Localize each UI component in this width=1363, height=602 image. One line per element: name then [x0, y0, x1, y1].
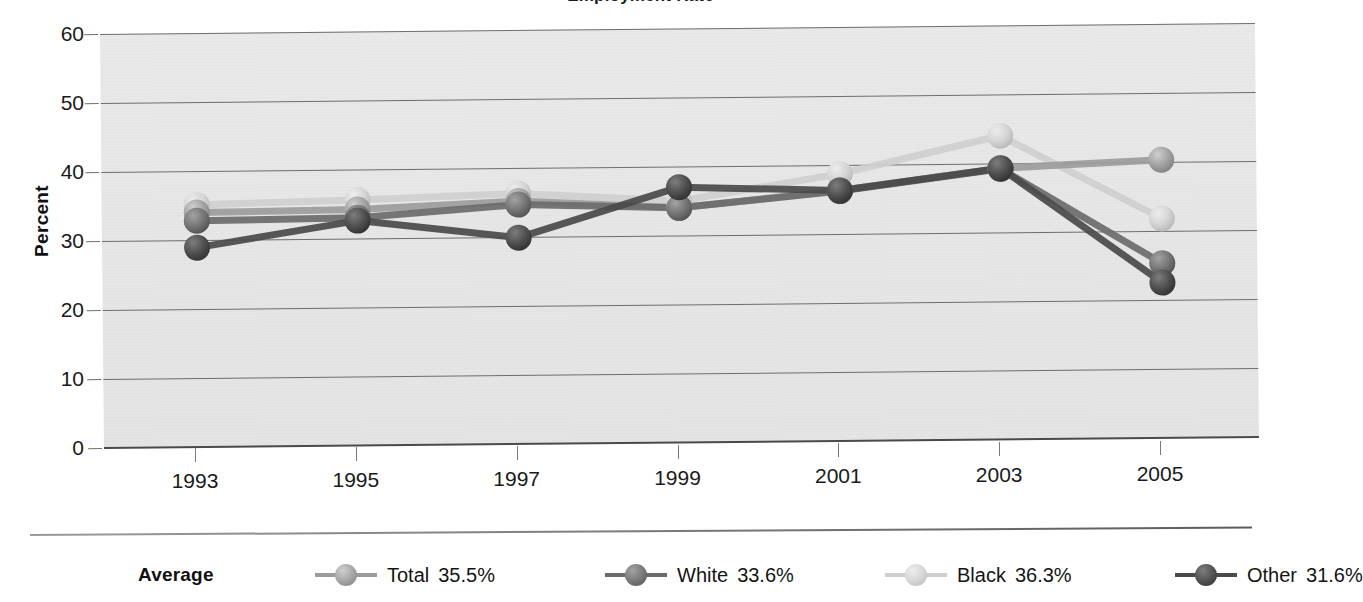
legend-item-other[interactable]: Other31.6% — [1175, 558, 1363, 592]
data-point-other-2005 — [1149, 269, 1175, 295]
legend-marker-white — [625, 564, 647, 586]
legend-label-other: Other — [1247, 564, 1297, 587]
data-point-other-2003 — [987, 155, 1013, 181]
x-tick-label: 2005 — [1105, 462, 1215, 486]
legend-label-black: Black — [957, 564, 1006, 587]
y-tick-mark — [86, 241, 100, 242]
data-point-black-2003 — [987, 123, 1013, 149]
y-tick-mark — [87, 310, 101, 311]
y-tick-label: 40 — [32, 161, 84, 182]
legend-swatch-other — [1175, 573, 1237, 577]
legend-item-black[interactable]: Black36.3% — [885, 558, 1072, 592]
x-tick-label: 1993 — [140, 469, 250, 493]
y-tick-mark — [87, 379, 101, 380]
legend-marker-total — [335, 564, 357, 586]
data-point-white-1993 — [184, 208, 210, 234]
x-tick-mark — [999, 442, 1000, 456]
x-tick-label: 1995 — [301, 468, 411, 492]
x-tick-label: 2001 — [783, 464, 893, 488]
y-tick-mark — [84, 34, 98, 35]
legend-label-total: Total — [387, 564, 429, 587]
y-tick-mark — [85, 103, 99, 104]
x-axis: 1993199519971999200120032005 — [100, 448, 1255, 508]
x-tick-mark — [195, 448, 196, 462]
legend-value-other: 31.6% — [1306, 564, 1363, 587]
y-tick-label: 10 — [32, 368, 84, 389]
chart-legend: Average Total35.5%White33.6%Black36.3%Ot… — [30, 552, 1252, 598]
x-tick-label: 1999 — [623, 466, 733, 490]
data-point-other-2001 — [827, 177, 853, 203]
data-point-total-2005 — [1148, 147, 1174, 173]
legend-item-white[interactable]: White33.6% — [605, 558, 794, 592]
chart-title: Employment Rate — [0, 0, 1281, 6]
legend-swatch-total — [315, 573, 377, 577]
plot-area — [100, 34, 1255, 448]
data-layer — [100, 23, 1259, 448]
y-tick-label: 0 — [32, 437, 84, 458]
y-tick-label: 50 — [32, 92, 84, 113]
x-tick-mark — [356, 447, 357, 461]
x-tick-mark — [678, 445, 679, 459]
legend-value-total: 35.5% — [438, 564, 495, 587]
data-point-other-1993 — [184, 235, 210, 261]
y-tick-mark — [85, 172, 99, 173]
legend-value-black: 36.3% — [1015, 564, 1072, 587]
legend-value-white: 33.6% — [737, 564, 794, 587]
legend-item-total[interactable]: Total35.5% — [315, 558, 495, 592]
legend-marker-black — [905, 564, 927, 586]
y-tick-label: 30 — [32, 230, 84, 251]
plot-canvas — [100, 23, 1259, 448]
data-point-other-1999 — [666, 174, 692, 200]
legend-title: Average — [138, 564, 214, 586]
data-point-black-2005 — [1149, 205, 1175, 231]
legend-swatch-white — [605, 573, 667, 577]
y-tick-label: 60 — [32, 23, 84, 44]
legend-swatch-black — [885, 573, 947, 577]
legend-divider — [30, 527, 1252, 536]
legend-label-white: White — [677, 564, 728, 587]
x-tick-mark — [838, 443, 839, 457]
x-tick-label: 2003 — [944, 463, 1054, 487]
y-tick-label: 20 — [32, 299, 84, 320]
x-tick-mark — [517, 446, 518, 460]
data-point-other-1995 — [345, 207, 371, 233]
x-tick-label: 1997 — [462, 467, 572, 491]
data-point-white-1997 — [505, 191, 531, 217]
data-point-other-1997 — [506, 225, 532, 251]
legend-marker-other — [1195, 564, 1217, 586]
x-tick-mark — [1160, 441, 1161, 455]
